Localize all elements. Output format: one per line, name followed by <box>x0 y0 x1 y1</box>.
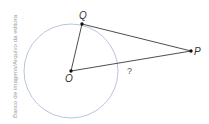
segment-oq <box>71 24 82 71</box>
label-o: O <box>65 73 73 84</box>
point-q <box>80 22 83 25</box>
label-p: P <box>194 46 201 57</box>
label-q: Q <box>79 10 87 21</box>
segment-qp <box>82 24 191 51</box>
image-credit: Banco de imagens/Arquivo da editora <box>11 15 18 118</box>
unknown-length-label: ? <box>127 66 132 76</box>
geometry-figure: Q O P ? <box>0 0 209 124</box>
point-p <box>189 49 192 52</box>
